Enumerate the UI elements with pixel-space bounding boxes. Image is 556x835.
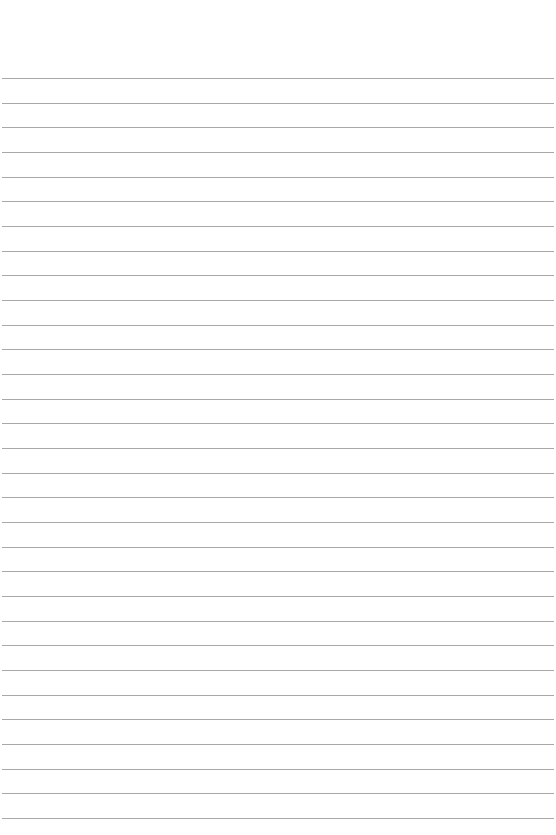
ruled-line — [2, 571, 554, 572]
ruled-line — [2, 127, 554, 128]
ruled-line — [2, 473, 554, 474]
ruled-line — [2, 670, 554, 671]
ruled-line — [2, 275, 554, 276]
ruled-line — [2, 399, 554, 400]
ruled-line — [2, 226, 554, 227]
ruled-line — [2, 300, 554, 301]
ruled-line — [2, 522, 554, 523]
ruled-line — [2, 695, 554, 696]
ruled-line — [2, 596, 554, 597]
ruled-line — [2, 621, 554, 622]
ruled-line — [2, 645, 554, 646]
ruled-line — [2, 152, 554, 153]
ruled-line — [2, 374, 554, 375]
ruled-line — [2, 325, 554, 326]
ruled-line — [2, 251, 554, 252]
ruled-line — [2, 497, 554, 498]
lined-paper-page — [0, 0, 556, 835]
ruled-line — [2, 818, 554, 819]
ruled-line — [2, 448, 554, 449]
ruled-line — [2, 719, 554, 720]
ruled-line — [2, 177, 554, 178]
ruled-line — [2, 78, 554, 79]
ruled-line — [2, 547, 554, 548]
ruled-line — [2, 769, 554, 770]
ruled-line — [2, 744, 554, 745]
ruled-line — [2, 793, 554, 794]
ruled-line — [2, 423, 554, 424]
ruled-line — [2, 201, 554, 202]
ruled-line — [2, 103, 554, 104]
ruled-line — [2, 349, 554, 350]
